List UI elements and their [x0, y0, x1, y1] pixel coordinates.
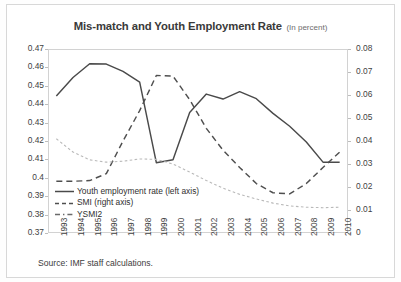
y-right-tick-label: 0 — [356, 227, 388, 237]
x-tick-label: 2010 — [344, 218, 353, 236]
x-tick-label: 1994 — [77, 218, 86, 236]
y-left-tick-mark — [45, 159, 48, 160]
x-tick-label: 1995 — [94, 218, 103, 236]
x-tick-label: 2000 — [177, 218, 186, 236]
x-tick-label: 2001 — [194, 218, 203, 236]
legend-item-label: SMI (right axis) — [77, 197, 133, 208]
x-tick-label: 2006 — [277, 218, 286, 236]
x-tick-label: 2002 — [210, 218, 219, 236]
y-right-tick-mark — [348, 141, 351, 142]
y-right-tick-mark — [348, 49, 351, 50]
y-right-tick-label: 0.01 — [356, 204, 388, 214]
y-right-tick-mark — [348, 95, 351, 96]
y-right-tick-label: 0.07 — [356, 66, 388, 76]
y-left-tick-label: 0.41 — [14, 153, 44, 163]
y-right-tick-mark — [348, 118, 351, 119]
x-tick-label: 2008 — [310, 218, 319, 236]
chart-title-block: Mis-match and Youth Employment Rate (In … — [0, 16, 401, 34]
x-tick-label: 1996 — [110, 218, 119, 236]
y-left-tick-label: 0.45 — [14, 80, 44, 90]
chart-subtitle: (In percent) — [286, 23, 327, 32]
y-left-tick-mark — [45, 104, 48, 105]
y-left-tick-mark — [45, 215, 48, 216]
page-title: Mis-match and Youth Employment Rate — [74, 20, 282, 32]
x-tick-label: 2005 — [260, 218, 269, 236]
y-right-tick-mark — [348, 187, 351, 188]
y-left-tick-label: 0.39 — [14, 190, 44, 200]
legend-key-dashed-icon — [55, 199, 74, 208]
x-tick-label: 2007 — [294, 218, 303, 236]
y-left-tick-mark — [45, 67, 48, 68]
y-right-tick-label: 0.02 — [356, 181, 388, 191]
legend-item: YSMI2 — [55, 209, 199, 220]
x-tick-label: 1998 — [144, 218, 153, 236]
y-left-tick-label: 0.47 — [14, 43, 44, 53]
y-left-tick-label: 0.42 — [14, 135, 44, 145]
y-left-tick-label: 0.44 — [14, 98, 44, 108]
y-left-tick-label: 0.38 — [14, 209, 44, 219]
y-left-tick-mark — [45, 123, 48, 124]
x-tick-label: 2003 — [227, 218, 236, 236]
legend-item: SMI (right axis) — [55, 197, 199, 208]
y-left-tick-mark — [45, 233, 48, 234]
x-tick-label: 2004 — [244, 218, 253, 236]
x-tick-label: 1999 — [160, 218, 169, 236]
y-left-tick-label: 0.37 — [14, 227, 44, 237]
y-right-tick-label: 0.03 — [356, 158, 388, 168]
legend-item-label: Youth employment rate (left axis) — [77, 186, 199, 197]
y-right-tick-label: 0.06 — [356, 89, 388, 99]
y-left-tick-mark — [45, 49, 48, 50]
y-left-tick-label: 0.4 — [14, 172, 44, 182]
legend-key-dashdot-icon — [55, 210, 74, 219]
y-right-tick-mark — [348, 72, 351, 73]
x-tick-label: 2009 — [327, 218, 336, 236]
x-tick-label: 1993 — [60, 218, 69, 236]
y-right-tick-label: 0.08 — [356, 43, 388, 53]
y-left-tick-mark — [45, 196, 48, 197]
chart-legend: Youth employment rate (left axis)SMI (ri… — [55, 186, 199, 220]
legend-key-solid-icon — [55, 187, 74, 196]
y-right-tick-label: 0.05 — [356, 112, 388, 122]
chart-figure: Mis-match and Youth Employment Rate (In … — [0, 0, 401, 282]
legend-item-label: YSMI2 — [77, 209, 102, 220]
y-left-tick-mark — [45, 86, 48, 87]
y-right-tick-mark — [348, 164, 351, 165]
source-note: Source: IMF staff calculations. — [38, 258, 153, 268]
y-left-tick-label: 0.46 — [14, 61, 44, 71]
legend-item: Youth employment rate (left axis) — [55, 186, 199, 197]
y-right-tick-label: 0.04 — [356, 135, 388, 145]
x-tick-label: 1997 — [127, 218, 136, 236]
y-left-tick-mark — [45, 141, 48, 142]
y-right-tick-mark — [348, 210, 351, 211]
y-left-tick-label: 0.43 — [14, 117, 44, 127]
y-left-tick-mark — [45, 178, 48, 179]
